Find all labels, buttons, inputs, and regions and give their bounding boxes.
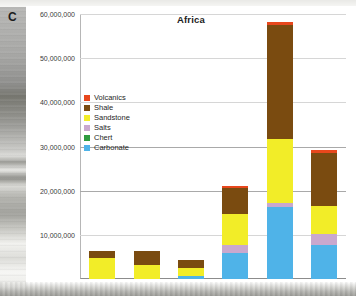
bar-segment-shale[interactable] xyxy=(311,153,337,206)
legend-swatch-icon xyxy=(84,135,90,141)
gridline xyxy=(80,235,346,236)
gridline xyxy=(80,14,346,15)
legend-item-salts[interactable]: Salts xyxy=(84,124,130,132)
bar-segment-sandstone[interactable] xyxy=(267,139,293,203)
bar-segment-sandstone[interactable] xyxy=(134,265,160,279)
panel-letter: C xyxy=(8,10,17,24)
legend-label: Carbonate xyxy=(94,144,129,152)
bar-segment-sandstone[interactable] xyxy=(311,206,337,234)
legend-label: Chert xyxy=(94,134,112,142)
bar-segment-shale[interactable] xyxy=(267,25,293,139)
bar-segment-sandstone[interactable] xyxy=(222,214,248,245)
bar-segment-carbonate[interactable] xyxy=(267,207,293,279)
bar-segment-carbonate[interactable] xyxy=(311,245,337,279)
legend-swatch-icon xyxy=(84,125,90,131)
y-axis-tick-label: 20,000,000 xyxy=(40,187,75,194)
legend-label: Sandstone xyxy=(94,114,130,122)
bar-absaroka[interactable] xyxy=(222,186,248,279)
chart-legend: VolcanicsShaleSandstoneSaltsChertCarbona… xyxy=(84,94,130,154)
bar-segment-salts[interactable] xyxy=(222,245,248,253)
bar-kaskaskia[interactable] xyxy=(178,260,204,279)
bar-tejas[interactable] xyxy=(311,150,337,279)
x-axis-tick-label: Sauk xyxy=(94,285,111,294)
bar-segment-shale[interactable] xyxy=(134,251,160,266)
bar-segment-shale[interactable] xyxy=(178,260,204,269)
bar-segment-salts[interactable] xyxy=(311,234,337,245)
x-axis-tick-label: Absaroka xyxy=(219,285,251,294)
x-axis-tick-label: Tippecanoe xyxy=(127,285,166,294)
legend-swatch-icon xyxy=(84,115,90,121)
chart-container: Africa 60,000,00050,000,00040,000,00030,… xyxy=(26,6,356,290)
bar-segment-sandstone[interactable] xyxy=(89,258,115,279)
legend-swatch-icon xyxy=(84,145,90,151)
x-axis-tick-label: Tejas xyxy=(315,285,333,294)
bar-zuni[interactable] xyxy=(267,22,293,279)
x-axis-tick-label: Zuni xyxy=(272,285,287,294)
gridline xyxy=(80,58,346,59)
bar-segment-shale[interactable] xyxy=(222,188,248,214)
legend-swatch-icon xyxy=(84,105,90,111)
bar-segment-carbonate[interactable] xyxy=(178,276,204,279)
y-axis-tick-label: 50,000,000 xyxy=(40,55,75,62)
bar-segment-shale[interactable] xyxy=(89,251,115,259)
y-axis-tick-label: 30,000,000 xyxy=(40,143,75,150)
legend-label: Volcanics xyxy=(94,94,126,102)
bar-tippecanoe[interactable] xyxy=(134,251,160,279)
y-axis-tick-label: 40,000,000 xyxy=(40,99,75,106)
legend-item-carbonate[interactable]: Carbonate xyxy=(84,144,130,152)
legend-label: Shale xyxy=(94,104,113,112)
legend-swatch-icon xyxy=(84,95,90,101)
legend-item-shale[interactable]: Shale xyxy=(84,104,130,112)
bar-segment-sandstone[interactable] xyxy=(178,268,204,276)
gridline xyxy=(80,191,346,192)
legend-label: Salts xyxy=(94,124,111,132)
bar-segment-carbonate[interactable] xyxy=(222,253,248,280)
y-axis-tick-label: 60,000,000 xyxy=(40,11,75,18)
x-axis-tick-label: Kaskaskia xyxy=(174,285,208,294)
legend-item-sandstone[interactable]: Sandstone xyxy=(84,114,130,122)
y-axis-tick-label: 10,000,000 xyxy=(40,231,75,238)
legend-item-chert[interactable]: Chert xyxy=(84,134,130,142)
bar-sauk[interactable] xyxy=(89,251,115,279)
legend-item-volcanics[interactable]: Volcanics xyxy=(84,94,130,102)
